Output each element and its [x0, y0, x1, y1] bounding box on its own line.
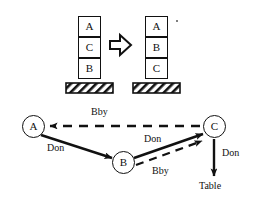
graph-node-a: A — [22, 115, 45, 138]
diagram-canvas: A C B A B C A B C Bby Don Don Bby Don Ta… — [0, 0, 255, 202]
edge-label-mid-don: Don — [144, 134, 161, 144]
goal-state-table — [133, 83, 180, 93]
state-transition-arrow-icon — [110, 35, 131, 55]
goal-block-bottom: C — [145, 58, 168, 79]
edge-label-left-don: Don — [47, 143, 64, 153]
edge-label-mid-bby: Bby — [152, 166, 169, 176]
initial-state-table — [66, 83, 113, 93]
edge-label-right-don: Don — [222, 148, 239, 158]
initial-block-top: A — [78, 16, 101, 37]
graph-node-c: C — [203, 115, 226, 138]
graph-node-table: Table — [199, 181, 221, 191]
graph-node-b: B — [112, 151, 135, 174]
goal-block-top: A — [145, 16, 168, 37]
initial-block-bottom: B — [78, 58, 101, 79]
initial-block-middle: C — [78, 37, 101, 58]
goal-block-middle: B — [145, 37, 168, 58]
edge-label-top-bby: Bby — [91, 107, 108, 117]
scan-speck — [176, 20, 178, 22]
